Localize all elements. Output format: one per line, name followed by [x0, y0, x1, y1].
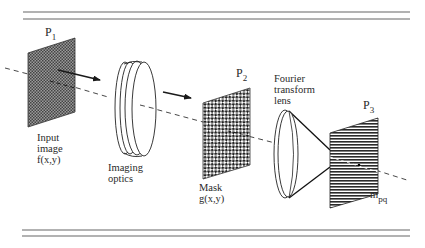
label-line: lens: [274, 95, 315, 106]
plane-label-main: P: [363, 98, 370, 112]
label-main: m: [370, 189, 378, 200]
label-line: optics: [108, 173, 143, 184]
plane-label-p3: P3: [363, 98, 374, 114]
label-line: Fourier: [274, 73, 315, 84]
arrow-icon: [163, 92, 191, 98]
input-plane-p1: [28, 38, 75, 127]
imaging-optics-label: Imaging optics: [108, 162, 143, 184]
fourier-lens-label: Fourier transform lens: [274, 73, 315, 106]
imaging-optics-lens: [115, 61, 156, 157]
output-mpq-label: mpq: [370, 189, 387, 203]
plane-label-sub: 2: [243, 73, 248, 83]
top-rule: [23, 12, 410, 19]
label-line: Mask: [199, 182, 224, 193]
plane-label-sub: 3: [370, 105, 375, 115]
label-line: image: [37, 143, 63, 154]
plane-label-p2: P2: [236, 66, 247, 82]
input-image-label: Input image f(x,y): [37, 132, 63, 165]
bottom-rule: [22, 230, 410, 236]
label-sub: pq: [378, 194, 387, 204]
mask-plane-p2: [203, 88, 250, 179]
plane-label-sub: 1: [52, 32, 57, 42]
label-line: f(x,y): [37, 154, 63, 165]
label-line: Imaging: [108, 162, 143, 173]
plane-label-p1: P1: [45, 25, 56, 41]
optical-diagram: P1 P2 P3 Input image f(x,y) Imaging opti…: [0, 0, 425, 248]
label-line: transform: [274, 84, 315, 95]
plane-label-main: P: [236, 66, 243, 80]
plane-label-main: P: [45, 25, 52, 39]
label-line: Input: [37, 132, 63, 143]
fourier-transform-lens: [274, 110, 330, 198]
mask-label: Mask g(x,y): [199, 182, 224, 204]
label-line: g(x,y): [199, 193, 224, 204]
diagram-canvas: [0, 0, 425, 248]
